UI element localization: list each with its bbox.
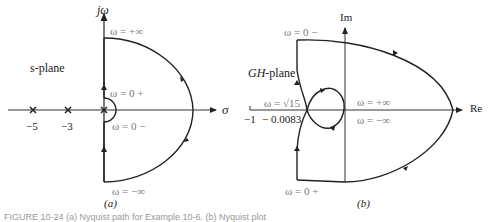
- subfigure-label-a: (a): [104, 198, 117, 209]
- tick-label-minus-1: −1: [244, 114, 256, 125]
- nyquist-plot: [297, 40, 453, 182]
- pole-label-minus-5: −5: [26, 121, 38, 132]
- omega-zero-plus-label-b: ω = 0 +: [285, 186, 318, 197]
- figure-caption: FIGURE 10-24 (a) Nyquist path for Exampl…: [4, 212, 266, 222]
- omega-plus-infinity-label-b: ω = +∞: [357, 97, 390, 108]
- crossing-value-label: − 0.0083: [262, 114, 301, 125]
- pole-label-minus-3: −3: [61, 121, 73, 132]
- omega-zero-minus-label-b: ω = 0 −: [284, 27, 317, 38]
- im-axis-label: Im: [340, 12, 352, 23]
- sigma-axis-label: σ: [222, 103, 228, 116]
- omega-minus-infinity-label: ω = −∞: [112, 186, 145, 197]
- omega-zero-minus-label: ω = 0 −: [112, 121, 145, 132]
- omega-plus-infinity-label: ω = +∞: [110, 26, 143, 37]
- gh-plane-label: GH-plane: [248, 67, 295, 79]
- s-plane-label: s-plane: [30, 62, 65, 74]
- omega-zero-plus-label: ω = 0 +: [110, 88, 143, 99]
- re-axis-label: Re: [470, 103, 482, 114]
- diagram-canvas: [0, 0, 490, 222]
- omega-minus-infinity-label-b: ω = −∞: [357, 115, 390, 126]
- omega-sqrt15-label: ω = √15: [264, 98, 300, 109]
- subfigure-label-b: (b): [357, 198, 370, 209]
- jw-axis-label: jω: [97, 4, 109, 16]
